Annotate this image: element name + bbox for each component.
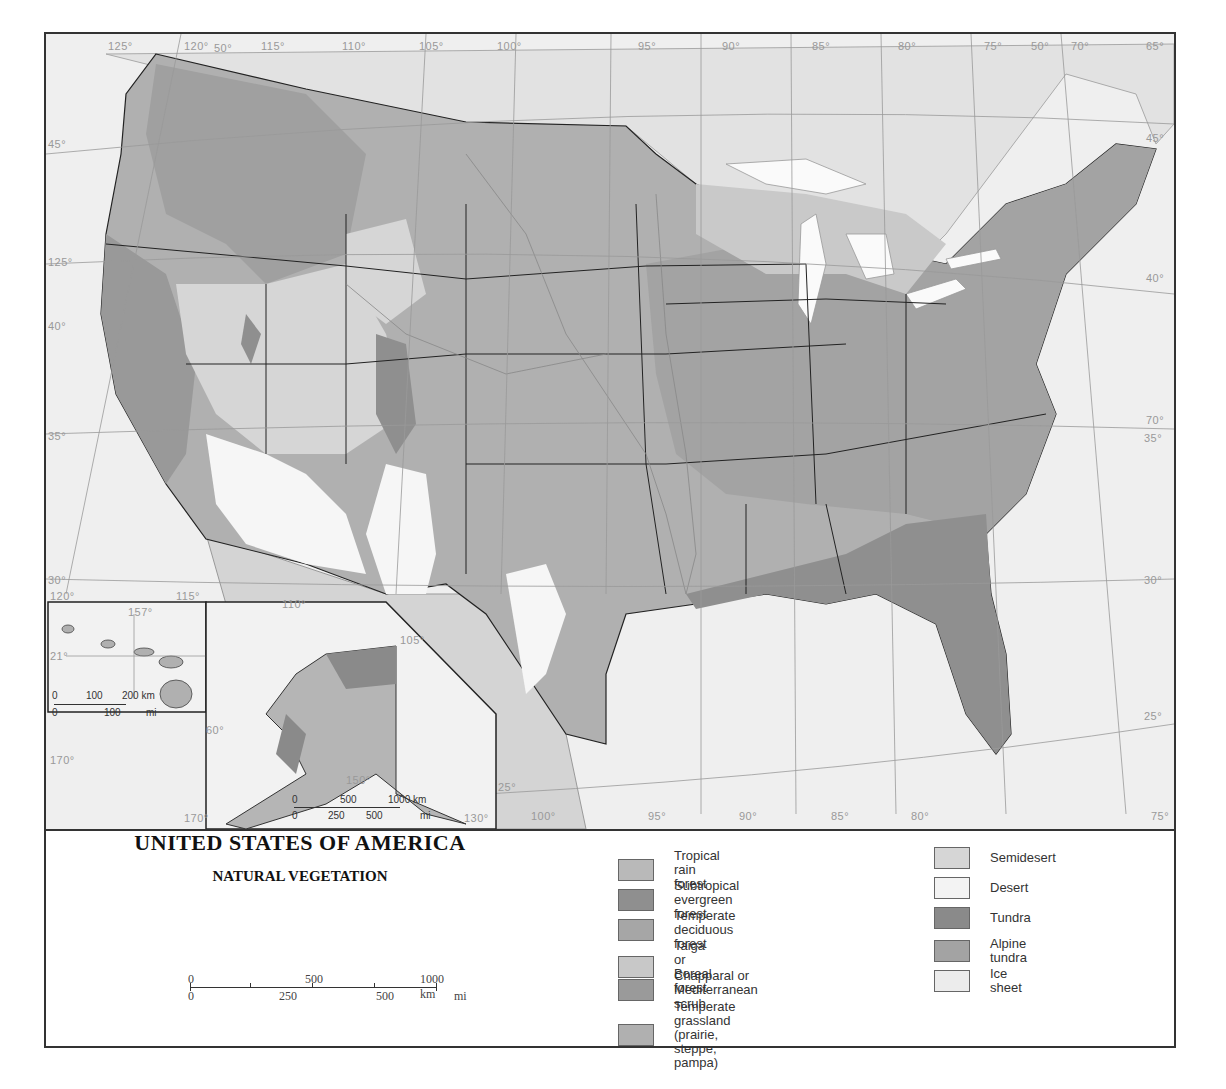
legend-swatch xyxy=(618,889,654,911)
lon-label: 65° xyxy=(1146,40,1164,52)
hawaii-lat-label: 21° xyxy=(50,650,68,662)
lat-label: 50° xyxy=(214,42,232,54)
lon-label: 90° xyxy=(739,810,757,822)
lon-label: 95° xyxy=(638,40,656,52)
lat-label: 25° xyxy=(1144,710,1162,722)
lon-label: 80° xyxy=(898,40,916,52)
map-graphic xyxy=(46,34,1174,829)
legend-swatch xyxy=(618,919,654,941)
legend-swatch xyxy=(934,847,970,869)
lat-label: 45° xyxy=(1146,132,1164,144)
lat-label: 50° xyxy=(1031,40,1049,52)
lon-label: 85° xyxy=(812,40,830,52)
legend-item-temperate-grassland: Temperate grassland (prairie, steppe, pa… xyxy=(618,1000,735,1070)
lat-label: 60° xyxy=(206,724,224,736)
lat-label: 30° xyxy=(1144,574,1162,586)
lon-label: 120° xyxy=(184,40,209,52)
lat-label: 25° xyxy=(498,781,516,793)
legend-item-alpine-tundra: Alpine tundra xyxy=(934,937,1027,965)
alaska-scale-bar: 0 500 1000 km 0 250 500 mi xyxy=(292,794,482,826)
lat-label: 40° xyxy=(48,320,66,332)
legend-swatch xyxy=(618,1024,654,1046)
legend-swatch xyxy=(618,979,654,1001)
legend-swatch xyxy=(934,877,970,899)
lon-label: 120° xyxy=(50,590,75,602)
lat-label: 40° xyxy=(1146,272,1164,284)
lon-label: 100° xyxy=(497,40,522,52)
lon-label: 125° xyxy=(48,256,73,268)
lon-label: 95° xyxy=(648,810,666,822)
title-block: UNITED STATES OF AMERICA NATURAL VEGETAT… xyxy=(110,830,490,885)
lon-label: 115° xyxy=(176,590,200,602)
legend-item-ice-sheet: Ice sheet xyxy=(934,967,1022,995)
lon-label: 170° xyxy=(50,754,75,766)
lon-label: 115° xyxy=(261,40,285,52)
legend-item-semidesert: Semidesert xyxy=(934,847,1056,869)
lon-label: 75° xyxy=(984,40,1002,52)
legend-item-tundra: Tundra xyxy=(934,907,1031,929)
legend-swatch xyxy=(618,859,654,881)
lat-label: 35° xyxy=(1144,432,1162,444)
lon-label: 110° xyxy=(282,598,306,610)
lon-label: 105° xyxy=(400,634,425,646)
lon-label: 170° xyxy=(184,812,209,824)
lon-label: 70° xyxy=(1071,40,1089,52)
lon-label: 100° xyxy=(531,810,556,822)
lon-label: 85° xyxy=(831,810,849,822)
lon-label: 110° xyxy=(342,40,366,52)
lon-label: 75° xyxy=(1151,810,1169,822)
legend-swatch xyxy=(934,970,970,992)
hawaii-scale-bar: 0 100 200 km 0 100 mi xyxy=(52,690,162,720)
map-area: 125° 120° 50° 115° 110° 105° 100° 95° 90… xyxy=(46,34,1174,831)
lon-label: 70° xyxy=(1146,414,1164,426)
legend-swatch xyxy=(934,940,970,962)
lon-label: 80° xyxy=(911,810,929,822)
map-title: UNITED STATES OF AMERICA xyxy=(110,830,490,856)
lon-label: 150° xyxy=(346,774,371,786)
lat-label: 30° xyxy=(48,574,66,586)
hawaii-lon-label: 157° xyxy=(128,606,153,618)
legend-item-desert: Desert xyxy=(934,877,1028,899)
lon-label: 90° xyxy=(722,40,740,52)
map-subtitle: NATURAL VEGETATION xyxy=(110,868,490,885)
lon-label: 125° xyxy=(108,40,133,52)
lat-label: 45° xyxy=(48,138,66,150)
lat-label: 35° xyxy=(48,430,66,442)
main-scale-bar: 0 500 1000 km 0 250 500 mi xyxy=(188,972,458,1012)
legend-swatch xyxy=(934,907,970,929)
lon-label: 105° xyxy=(419,40,444,52)
